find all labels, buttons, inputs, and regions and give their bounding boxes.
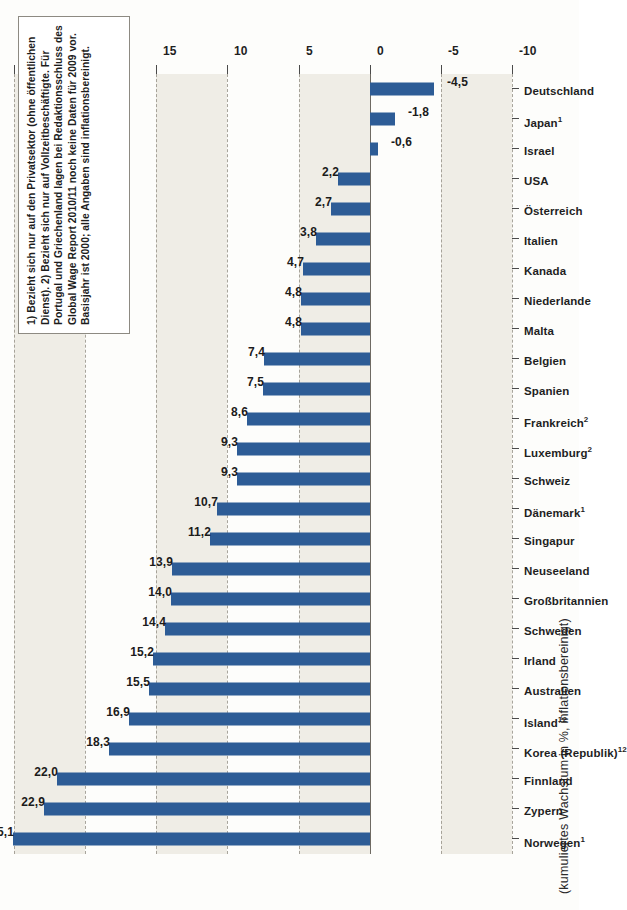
bar[interactable] [149,683,370,696]
bar[interactable] [370,113,396,126]
value-tick-label: 10 [234,44,247,58]
bar[interactable] [172,563,370,576]
bar[interactable] [301,323,369,336]
category-label: Luxemburg2 [524,445,592,459]
bar-value-label: 2,7 [315,195,332,209]
bar-slot: 15,2 [14,644,512,674]
bar[interactable] [165,623,370,636]
category-label: Schweden [524,625,582,637]
bar[interactable] [370,143,379,156]
bar[interactable] [109,743,369,756]
category-tick [512,208,519,209]
bar-slot: 22,9 [14,794,512,824]
bar[interactable] [370,83,434,96]
category-tick [512,778,519,779]
value-tick [441,65,442,74]
category-tick [512,358,519,359]
bar[interactable] [303,263,370,276]
category-tick [512,448,519,449]
bar[interactable] [237,443,369,456]
category-label: Australien [524,685,581,697]
bar-slot: 15,5 [14,674,512,704]
value-tick-label: -5 [448,44,459,58]
category-tick [512,568,519,569]
category-tick [512,628,519,629]
category-tick [512,328,519,329]
footnote-text: 1) Bezieht sich nur auf den Privatsektor… [25,25,93,325]
bar[interactable] [153,653,369,666]
category-tick [512,478,519,479]
bar-value-label: 14,0 [148,585,172,599]
bar-value-label: 11,2 [188,525,211,539]
bar[interactable] [217,503,369,516]
category-label: Deutschland [524,85,594,97]
bar-value-label: 2,2 [322,165,339,179]
bar-slot: 14,4 [14,614,512,644]
category-label: Österreich [524,205,583,217]
bar-value-label: 3,8 [300,225,317,239]
bar[interactable] [247,413,369,426]
category-tick [512,538,519,539]
bar-value-label: 10,7 [195,495,219,509]
bar[interactable] [264,353,369,366]
category-tick [512,388,519,389]
bar-value-label: -4,5 [447,75,468,89]
bar[interactable] [237,473,369,486]
category-tick [512,598,519,599]
bar-value-label: 8,6 [231,405,248,419]
bar[interactable] [316,233,370,246]
category-label: Japan1 [524,115,562,129]
category-label: Großbritannien [524,595,608,607]
bar-slot: 10,7 [14,494,512,524]
category-tick [512,808,519,809]
bar[interactable] [44,803,370,816]
category-label: Finnland [524,775,573,787]
category-tick [512,718,519,719]
category-tick [512,508,519,509]
bar-slot: 22,0 [14,764,512,794]
value-tick [227,65,228,74]
bar[interactable] [210,533,369,546]
bar-slot: 18,3 [14,734,512,764]
category-axis: Norwegen1ZypernFinnlandKorea (Republik)1… [512,74,576,854]
bar-value-label: 14,4 [142,615,166,629]
category-tick [512,688,519,689]
category-tick [512,748,519,749]
bar-value-label: 18,3 [87,735,111,749]
category-label: Frankreich2 [524,415,588,429]
category-tick [512,238,519,239]
category-label: Belgien [524,355,566,367]
category-label: Zypern [524,805,563,817]
bar-value-label: 9,3 [221,465,238,479]
category-label: Kanada [524,265,566,277]
bar[interactable] [57,773,370,786]
bar[interactable] [338,173,369,186]
bar-value-label: 4,8 [285,315,302,329]
value-tick [512,65,513,74]
bar-slot: 9,3 [14,464,512,494]
bar[interactable] [331,203,369,216]
bar-value-label: -1,8 [408,105,429,119]
bar[interactable] [171,593,370,606]
bar[interactable] [13,833,370,846]
category-tick [512,298,519,299]
value-tick [370,65,371,74]
bar[interactable] [129,713,369,726]
category-label: Niederlande [524,295,591,307]
bar-slot: 11,2 [14,524,512,554]
category-label: USA [524,175,549,187]
bar-slot: 7,4 [14,344,512,374]
category-label: Neuseeland [524,565,590,577]
category-label: Israel [524,145,555,157]
category-label: Irland [524,655,556,667]
category-tick [512,88,519,89]
value-tick [14,65,15,74]
bar[interactable] [301,293,369,306]
value-tick-label: 15 [163,44,176,58]
value-tick [156,65,157,74]
bar-value-label: 7,4 [248,345,265,359]
category-label: Island12 [524,715,567,729]
bar[interactable] [263,383,370,396]
